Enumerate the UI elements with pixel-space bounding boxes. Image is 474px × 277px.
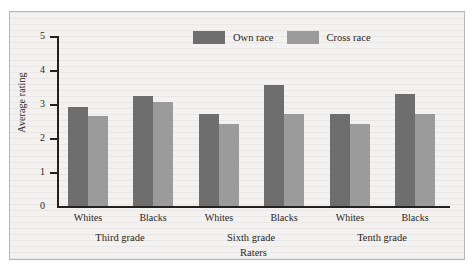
bars-layer (57, 36, 450, 206)
bar-whites-own-race-2 (199, 114, 219, 206)
bar-blacks-cross-race-3 (284, 114, 304, 206)
category-label-1: Blacks (118, 212, 188, 223)
bar-blacks-own-race-5 (395, 94, 415, 206)
y-tick-mark-1 (50, 172, 57, 174)
x-axis-title: Raters (57, 247, 450, 258)
bar-whites-cross-race-2 (219, 124, 239, 206)
y-tick-1: 1 (0, 172, 57, 174)
y-tick-label-0: 0 (23, 201, 45, 211)
bar-blacks-own-race-1 (133, 96, 153, 207)
y-tick-mark-5 (50, 36, 57, 38)
category-label-0: Whites (53, 212, 123, 223)
chart-plot-area: 5 4 3 2 1 0 Average rating Own race (0, 0, 474, 277)
y-tick-2: 2 (0, 138, 57, 140)
category-label-2: Whites (184, 212, 254, 223)
bar-whites-own-race-0 (68, 107, 88, 206)
group-label-sixth-grade: Sixth grade (191, 232, 311, 243)
y-tick-4: 4 (0, 70, 57, 72)
bar-whites-cross-race-0 (88, 116, 108, 206)
bar-blacks-cross-race-5 (415, 114, 435, 206)
category-label-5: Blacks (380, 212, 450, 223)
y-tick-label-1: 1 (23, 167, 45, 177)
x-axis-line (57, 206, 450, 208)
y-tick-label-5: 5 (23, 31, 45, 41)
y-tick-5: 5 (0, 36, 57, 38)
bar-blacks-own-race-3 (264, 85, 284, 206)
bar-blacks-cross-race-1 (153, 102, 173, 206)
bar-whites-own-race-4 (330, 114, 350, 206)
y-tick-mark-4 (50, 70, 57, 72)
y-tick-mark-3 (50, 104, 57, 106)
y-axis-title: Average rating (16, 58, 27, 148)
category-label-4: Whites (315, 212, 385, 223)
bar-whites-cross-race-4 (350, 124, 370, 206)
figure: 5 4 3 2 1 0 Average rating Own race (0, 0, 474, 277)
y-tick-3: 3 (0, 104, 57, 106)
y-tick-mark-2 (50, 138, 57, 140)
group-label-tenth-grade: Tenth grade (322, 232, 442, 243)
category-label-3: Blacks (249, 212, 319, 223)
y-tick-0: 0 (0, 206, 57, 208)
group-label-third-grade: Third grade (60, 232, 180, 243)
